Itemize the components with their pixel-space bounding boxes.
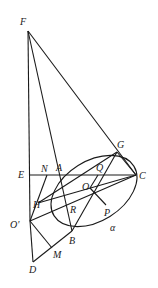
segment-F-Oprime xyxy=(28,31,30,221)
segment-G-C xyxy=(117,152,136,175)
label-A: A xyxy=(55,162,63,173)
label-F: F xyxy=(19,16,27,27)
label-O-prime: O' xyxy=(10,219,20,230)
segment-Oprime-N xyxy=(30,175,47,221)
segment-F-D xyxy=(30,221,33,262)
segment-O-P xyxy=(90,188,106,205)
label-alpha: α xyxy=(110,222,116,233)
label-H: H xyxy=(32,199,41,210)
label-E: E xyxy=(17,169,24,180)
segment-G-H xyxy=(38,152,117,203)
label-P: P xyxy=(103,207,110,218)
segment-Oprime-M xyxy=(30,221,52,248)
label-M: M xyxy=(52,249,62,260)
label-D: D xyxy=(28,264,37,275)
label-B: B xyxy=(69,235,75,246)
label-O: O xyxy=(82,181,89,192)
label-Q: Q xyxy=(96,162,104,173)
label-N: N xyxy=(40,163,49,174)
geometry-diagram: F E N A G C Q O H R P O' B M D α xyxy=(0,0,158,288)
label-R: R xyxy=(69,204,76,215)
label-G: G xyxy=(117,139,124,150)
label-C: C xyxy=(139,170,146,181)
